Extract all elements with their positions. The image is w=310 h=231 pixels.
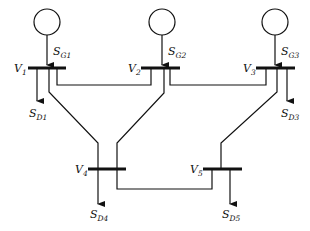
label-v3: V3 xyxy=(243,62,256,77)
label-sd1: SD1 xyxy=(29,107,47,122)
generator-1-icon xyxy=(34,9,60,35)
line-1-4 xyxy=(49,68,98,169)
generator-2-icon xyxy=(149,9,175,35)
line-3-5 xyxy=(221,68,277,169)
label-sg1: SG1 xyxy=(53,45,71,60)
label-sg2: SG2 xyxy=(168,45,187,60)
label-v2: V2 xyxy=(128,62,141,77)
label-v5: V5 xyxy=(190,163,203,178)
generator-3-icon xyxy=(262,9,288,35)
power-system-diagram: V1 V2 V3 V4 V5 SG1 SG2 SG3 SD1 SD3 SD4 S… xyxy=(0,0,310,231)
label-v4: V4 xyxy=(75,163,88,178)
label-sd5: SD5 xyxy=(222,208,241,223)
label-sd4: SD4 xyxy=(90,208,109,223)
label-sd3: SD3 xyxy=(281,107,300,122)
line-2-4 xyxy=(117,68,164,169)
label-v1: V1 xyxy=(14,62,27,77)
label-sg3: SG3 xyxy=(281,45,300,60)
